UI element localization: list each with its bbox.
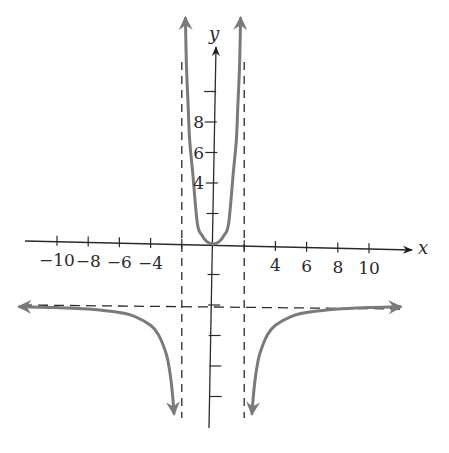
x-tick-label: 8 <box>332 257 343 277</box>
x-tick-label: −4 <box>138 253 163 273</box>
rational-function-graph: −10−8−6−446810468 x y <box>0 0 449 453</box>
right-branch-curve <box>252 307 400 414</box>
x-tick-label: −6 <box>107 252 132 272</box>
y-tick-label: 6 <box>193 143 204 163</box>
x-tick-label: 10 <box>358 258 380 278</box>
y-tick-label: 8 <box>193 112 204 132</box>
tick-labels: −10−8−6−446810468 <box>39 112 380 278</box>
y-axis-label: y <box>208 23 220 44</box>
y-axis <box>209 47 216 428</box>
left-branch-curve <box>20 307 174 414</box>
x-tick-label: −8 <box>76 251 101 271</box>
x-tick-label: 6 <box>301 256 312 276</box>
axes <box>25 47 412 428</box>
x-axis-label: x <box>418 237 428 258</box>
x-tick-label: 4 <box>270 255 281 275</box>
x-tick-label: −10 <box>39 250 75 270</box>
y-tick-label: 4 <box>193 173 204 193</box>
